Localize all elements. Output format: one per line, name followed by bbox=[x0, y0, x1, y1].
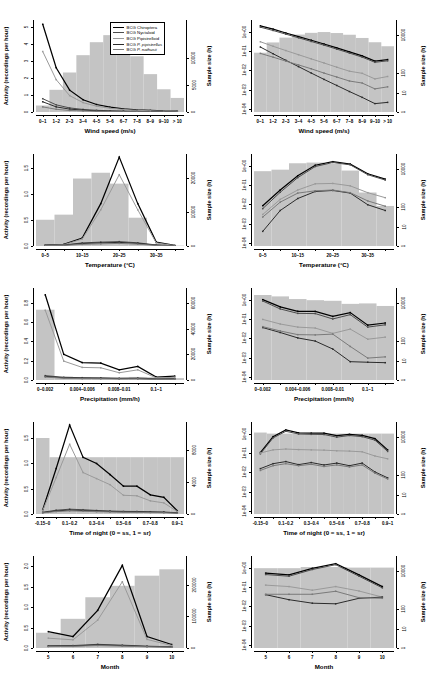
x-axis-tick-label: 5–6 bbox=[106, 119, 114, 124]
secondary-y-axis-tick-label: 100 bbox=[402, 70, 407, 78]
x-axis-tick bbox=[138, 383, 139, 385]
x-axis-tick-label: 2–3 bbox=[282, 119, 290, 124]
x-axis-line bbox=[36, 383, 184, 384]
series-0 bbox=[45, 294, 176, 378]
y-axis-tick bbox=[31, 303, 33, 304]
y-axis-tick-label: 1e-04 bbox=[242, 103, 247, 115]
data-point bbox=[350, 164, 352, 166]
x-axis-tick-label: 4–5 bbox=[93, 119, 101, 124]
secondary-y-axis-tick bbox=[187, 482, 189, 483]
data-point bbox=[272, 56, 274, 58]
secondary-y-axis-title: Sample size (h) bbox=[417, 14, 428, 118]
legend-item-label: BCG P. nathusii bbox=[127, 47, 157, 52]
secondary-y-axis-title: Sample size (h) bbox=[417, 282, 428, 386]
y-axis-tick bbox=[249, 185, 251, 186]
data-point bbox=[280, 306, 282, 308]
data-point bbox=[136, 512, 138, 514]
data-point bbox=[297, 198, 299, 200]
secondary-y-axis-tick-label: 10 bbox=[402, 626, 407, 631]
x-axis-tick bbox=[82, 383, 83, 385]
data-point bbox=[55, 106, 57, 108]
plot-panel-month-linear: Activity (recordings per hour)Sample siz… bbox=[0, 550, 214, 684]
y-axis-tick-label: 1e-04 bbox=[242, 237, 247, 249]
x-axis-tick bbox=[119, 383, 120, 385]
sample-size-bar bbox=[324, 567, 347, 648]
x-axis-tick-label: 5–6 bbox=[320, 119, 328, 124]
y-axis-line bbox=[251, 20, 252, 112]
data-point bbox=[323, 449, 325, 451]
x-axis-tick-label: 0–0.002 bbox=[255, 387, 271, 392]
x-axis-tick bbox=[280, 383, 281, 385]
data-point bbox=[374, 438, 376, 440]
data-point bbox=[265, 594, 267, 596]
data-point bbox=[311, 58, 313, 60]
secondary-y-axis-tick-label: 100 bbox=[402, 472, 407, 480]
data-point bbox=[311, 72, 313, 74]
plot-canvas bbox=[254, 20, 394, 112]
x-axis-tick-label: 1–2 bbox=[269, 119, 277, 124]
data-point bbox=[156, 242, 158, 244]
x-axis-tick-label: 10–15 bbox=[291, 253, 304, 258]
data-point bbox=[150, 512, 152, 514]
data-point bbox=[177, 111, 179, 112]
y-axis-tick-label: 0.0 bbox=[24, 377, 29, 383]
x-axis-title: Month bbox=[254, 663, 394, 670]
panel-grid: Activity (recordings per hour)Sample siz… bbox=[0, 14, 429, 686]
data-point bbox=[382, 587, 384, 589]
data-point bbox=[137, 243, 139, 245]
data-point bbox=[350, 361, 352, 363]
data-point bbox=[262, 205, 264, 207]
data-point bbox=[137, 366, 139, 368]
data-point bbox=[260, 470, 262, 472]
data-point bbox=[260, 452, 262, 454]
plot-area: 0.00.51.01.5010000200000–510–1520–2530–3… bbox=[36, 154, 184, 246]
x-axis-tick-label: 0.5–0.6 bbox=[329, 521, 344, 526]
sample-size-bar bbox=[324, 301, 342, 380]
y-axis-tick bbox=[249, 568, 251, 569]
data-point bbox=[55, 477, 57, 479]
data-point bbox=[323, 434, 325, 436]
y-axis-tick bbox=[249, 109, 251, 110]
data-point bbox=[100, 209, 102, 211]
secondary-y-axis-tick bbox=[397, 380, 399, 381]
data-point bbox=[285, 448, 287, 450]
secondary-y-axis-tick bbox=[397, 514, 399, 515]
data-point bbox=[336, 66, 338, 68]
data-point bbox=[280, 189, 282, 191]
data-point bbox=[332, 316, 334, 318]
x-axis-tick bbox=[175, 249, 176, 251]
data-point bbox=[315, 183, 317, 185]
data-point bbox=[55, 104, 57, 106]
plot-panel-temp-linear: Activity (recordings per hour)Sample siz… bbox=[0, 148, 214, 282]
legend-item-label: BCG Pipistrelloid bbox=[127, 36, 159, 41]
data-point bbox=[96, 111, 98, 112]
secondary-y-axis-title: Sample size (h) bbox=[203, 416, 214, 520]
secondary-y-axis-tick bbox=[187, 212, 189, 213]
x-axis-tick bbox=[83, 517, 84, 519]
data-point bbox=[315, 166, 317, 168]
data-point bbox=[42, 51, 44, 53]
x-axis-tick bbox=[375, 517, 376, 519]
x-axis-tick bbox=[368, 383, 369, 385]
y-axis-tick bbox=[31, 341, 33, 342]
y-axis-tick-label: 1 bbox=[24, 94, 29, 97]
data-point bbox=[163, 512, 165, 514]
x-axis-tick-label: 5 bbox=[264, 655, 267, 660]
data-point bbox=[350, 192, 352, 194]
data-point bbox=[177, 511, 179, 512]
x-axis-tick-label: 0.7–0.8 bbox=[355, 521, 370, 526]
y-axis-line bbox=[251, 556, 252, 648]
secondary-y-axis-tick-label: 10000 bbox=[402, 29, 407, 42]
x-axis-tick bbox=[263, 249, 264, 251]
y-axis-tick bbox=[31, 361, 33, 362]
legend-item[interactable]: BCG P. nathusii bbox=[113, 47, 162, 53]
data-point bbox=[260, 41, 262, 43]
data-point bbox=[367, 357, 369, 359]
x-axis-tick bbox=[110, 115, 111, 117]
x-axis-tick-label: 6–7 bbox=[333, 119, 341, 124]
data-point bbox=[82, 378, 84, 380]
data-point bbox=[387, 60, 389, 62]
x-axis-line bbox=[36, 249, 184, 250]
y-axis-tick bbox=[249, 434, 251, 435]
y-axis-tick-label: 0.0 bbox=[24, 645, 29, 651]
